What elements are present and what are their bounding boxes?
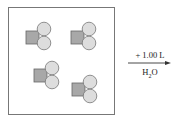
- container-box: [9, 8, 115, 115]
- solvent-label: H2O: [130, 67, 170, 79]
- molecule-circle-atom: [45, 75, 59, 89]
- molecule-circle-atom: [82, 36, 96, 50]
- molecule-square-atom: [72, 83, 85, 96]
- reaction-arrow-head: [165, 61, 171, 65]
- molecule-circle-atom: [37, 22, 51, 36]
- molecule-circle-atom: [83, 75, 97, 89]
- molecule-circle-atom: [83, 89, 97, 103]
- added-volume-label: + 1.00 L: [130, 50, 170, 60]
- molecule-circle-atom: [82, 22, 96, 36]
- molecule-circle-atom: [37, 36, 51, 50]
- molecule-circle-atom: [45, 61, 59, 75]
- molecule-square-atom: [34, 69, 47, 82]
